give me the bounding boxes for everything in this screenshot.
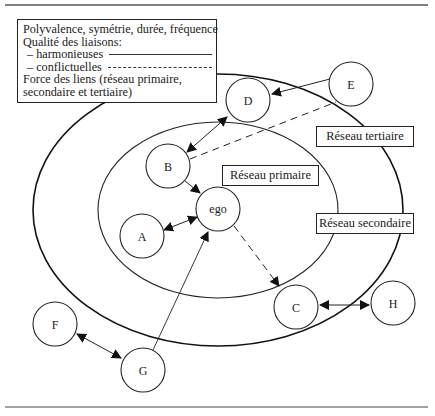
edge-f-g (77, 334, 121, 358)
legend-box: Polyvalence, symétrie, durée, fréquence … (17, 19, 217, 103)
node-label-g: G (123, 364, 163, 379)
node-label-a: A (122, 230, 162, 245)
edge-a-ego (164, 217, 197, 230)
node-label-f: F (35, 318, 75, 333)
label-tertiary-network: Réseau tertiaire (316, 126, 414, 147)
legend-harmonious-label: – harmonieuses (27, 48, 103, 61)
legend-harmonious: – harmonieuses (23, 48, 216, 61)
node-label-e: E (331, 78, 371, 93)
label-secondary-network: Réseau secondaire (316, 213, 414, 234)
node-label-c: C (276, 301, 316, 316)
label-primary-network: Réseau primaire (222, 165, 319, 186)
node-label-d: D (228, 94, 268, 109)
node-label-h: H (373, 297, 413, 312)
node-label-ego: ego (198, 202, 238, 217)
edge-g-ego (153, 232, 208, 350)
edge-b-ego (185, 181, 200, 193)
edge-ego-c-dashed (234, 226, 279, 286)
legend-line-attributes: Polyvalence, symétrie, durée, fréquence (23, 23, 216, 36)
node-label-b: B (148, 160, 188, 175)
solid-line-sample (109, 54, 212, 55)
dashed-line-sample (108, 67, 212, 68)
legend-line-strength-cont: secondaire et tertiaire) (23, 86, 216, 99)
